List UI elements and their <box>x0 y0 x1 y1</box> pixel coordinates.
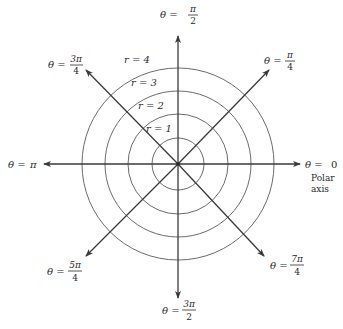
theta-prefix: θ = <box>264 55 282 66</box>
fraction-denominator: 4 <box>287 62 293 72</box>
theta-prefix: θ = <box>48 59 66 70</box>
origin-point <box>176 162 180 166</box>
label-theta-3pi-over-2: θ = 3π 2 <box>162 299 196 322</box>
label-theta-pi-over-4: θ = π 4 <box>264 50 295 72</box>
label-theta-3pi-over-4: θ = 3π 4 <box>48 54 83 76</box>
ray-pi-over-4 <box>178 70 269 164</box>
polar-diagram: r = 4 r = 3 r = 2 r = 1 θ = π 2 θ = 3π 4… <box>0 0 343 329</box>
fraction-numerator: 7π <box>291 254 304 264</box>
label-theta-pi-over-2: θ = π 2 <box>160 4 198 26</box>
label-theta-pi: θ = π <box>8 159 37 170</box>
polar-axis-label-line2: axis <box>311 184 329 194</box>
theta-prefix: θ = <box>47 266 65 277</box>
fraction-denominator: 4 <box>72 273 78 283</box>
fraction-numerator: 5π <box>69 260 82 270</box>
theta-value: π <box>29 159 37 170</box>
label-theta-7pi-over-4: θ = 7π 4 <box>270 254 304 277</box>
label-r2: r = 2 <box>138 100 164 111</box>
label-r3: r = 3 <box>131 77 157 88</box>
theta-value: 0 <box>331 159 337 170</box>
fraction-numerator: π <box>189 4 197 14</box>
fraction-numerator: 3π <box>183 299 196 309</box>
label-theta-0: θ = 0 Polar axis <box>305 159 337 194</box>
ray-5pi-over-4 <box>86 164 178 256</box>
fraction-denominator: 4 <box>294 267 300 277</box>
polar-axis-label-line1: Polar <box>311 173 335 183</box>
theta-prefix: θ = <box>162 305 180 316</box>
label-r1: r = 1 <box>146 123 172 134</box>
radius-labels: r = 4 r = 3 r = 2 r = 1 <box>124 54 172 134</box>
fraction-numerator: 3π <box>70 54 83 64</box>
theta-prefix: θ = <box>160 9 178 20</box>
label-r4: r = 4 <box>124 54 150 65</box>
fraction-denominator: 2 <box>190 16 196 26</box>
fraction-denominator: 4 <box>73 66 79 76</box>
ray-7pi-over-4 <box>178 164 264 256</box>
label-theta-5pi-over-4: θ = 5π 4 <box>47 260 82 283</box>
fraction-denominator: 2 <box>186 312 192 322</box>
theta-prefix: θ = <box>8 159 26 170</box>
theta-prefix: θ = <box>270 260 288 271</box>
fraction-numerator: π <box>286 50 294 60</box>
theta-prefix: θ = <box>305 159 323 170</box>
